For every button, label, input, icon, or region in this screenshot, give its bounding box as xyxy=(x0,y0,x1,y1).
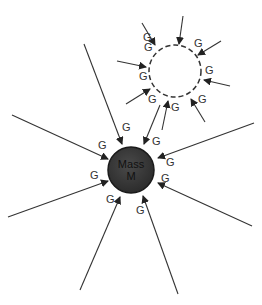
field-arrow xyxy=(117,61,146,67)
field-arrow xyxy=(12,115,108,159)
field-arrow xyxy=(80,197,120,290)
field-label-g: G xyxy=(205,64,214,76)
field-arrow xyxy=(158,183,252,226)
field-arrow xyxy=(84,44,122,144)
diagram-canvas: Mass M GGGGGGGGGGGGGGGG xyxy=(0,0,262,305)
field-arrow xyxy=(158,123,254,158)
mass-label: Mass xyxy=(118,158,145,170)
field-arrow xyxy=(126,89,150,104)
field-arrow xyxy=(204,80,230,86)
field-arrow xyxy=(143,196,178,294)
field-label-g: G xyxy=(198,93,207,105)
field-label-g: G xyxy=(98,139,107,151)
field-label-g: G xyxy=(171,101,180,113)
field-label-g: G xyxy=(152,135,161,147)
field-label-g: G xyxy=(90,169,99,181)
field-label-g: G xyxy=(136,204,145,216)
field-label-g: G xyxy=(144,41,153,53)
field-arrow xyxy=(162,101,168,130)
field-label-g: G xyxy=(148,93,157,105)
field-label-g: G xyxy=(139,70,148,82)
empty-region-dashed-circle xyxy=(149,45,201,97)
field-label-g: G xyxy=(106,193,115,205)
field-label-g: G xyxy=(122,121,131,133)
field-label-g: G xyxy=(166,156,175,168)
field-labels: GGGGGGGGGGGGGGGG xyxy=(90,31,214,216)
mass-symbol-label: M xyxy=(126,170,135,182)
field-label-g: G xyxy=(194,37,203,49)
gravity-diagram: Mass M GGGGGGGGGGGGGGGG xyxy=(0,0,262,305)
field-label-g: G xyxy=(161,172,170,184)
field-arrow xyxy=(179,16,183,44)
field-arrow xyxy=(8,181,108,217)
